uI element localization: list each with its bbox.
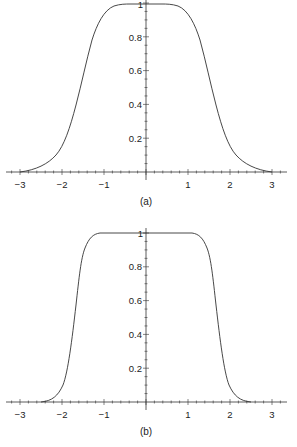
x-tick-label: −1: [99, 409, 110, 420]
caption-b: (b): [140, 426, 152, 437]
caption-a: (a): [140, 196, 152, 207]
x-tick-label: −3: [15, 409, 26, 420]
x-tick-label: 2: [227, 409, 232, 420]
x-tick-label: 3: [269, 409, 274, 420]
y-tick-label: 0.6: [129, 65, 142, 76]
figure: −3 −2 −1 1 2 3 0.2 0.4 0.6 0.8 1 (a) −3 …: [0, 0, 297, 447]
x-tick-label: −3: [15, 179, 26, 190]
x-tick-label: −2: [57, 409, 68, 420]
y-tick-label: 1: [138, 228, 143, 239]
y-tick-label: 0.4: [129, 329, 142, 340]
y-tick-label: 0.8: [129, 32, 142, 43]
y-tick-label: 1: [138, 0, 143, 10]
x-tick-label: 2: [227, 179, 232, 190]
y-tick-label: 0.4: [129, 99, 142, 110]
chart-a: −3 −2 −1 1 2 3 0.2 0.4 0.6 0.8 1 (a): [6, 0, 287, 207]
chart-b: −3 −2 −1 1 2 3 0.2 0.4 0.6 0.8 1 (b): [6, 228, 287, 437]
x-tick-label: 1: [185, 179, 190, 190]
x-tick-label: 1: [185, 409, 190, 420]
y-tick-label: 0.6: [129, 295, 142, 306]
x-tick-label: −2: [57, 179, 68, 190]
y-tick-label: 0.2: [129, 363, 142, 374]
y-tick-label: 0.2: [129, 133, 142, 144]
y-tick-label: 0.8: [129, 261, 142, 272]
x-tick-label: 3: [269, 179, 274, 190]
x-tick-label: −1: [99, 179, 110, 190]
